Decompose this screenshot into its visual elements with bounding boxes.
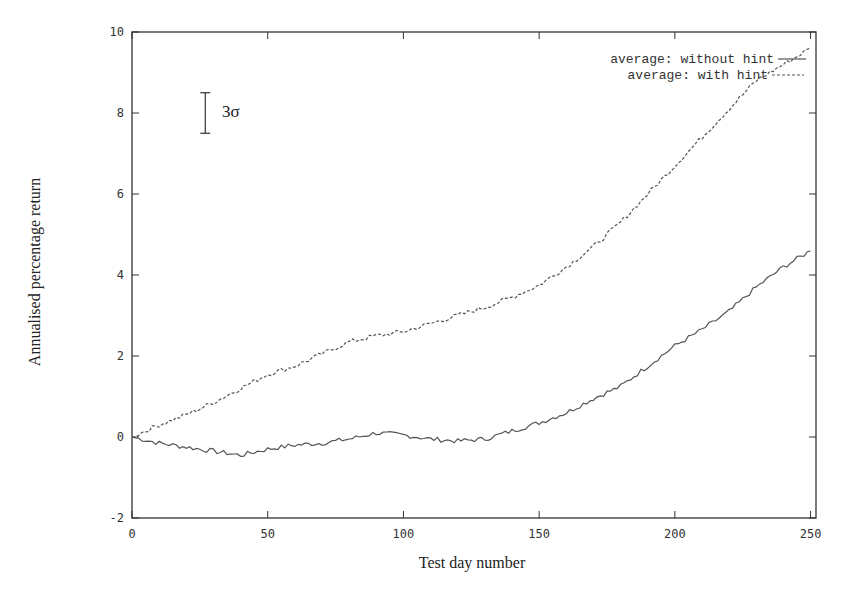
- y-tick-label: -2: [110, 511, 124, 525]
- x-tick-label: 200: [664, 527, 686, 541]
- y-tick-label: 4: [117, 268, 124, 282]
- y-axis-title: Annualised percentage return: [26, 178, 44, 366]
- x-tick-label: 100: [393, 527, 415, 541]
- line-without-hint: [132, 251, 811, 457]
- x-axis-title: Test day number: [419, 554, 526, 572]
- line-chart: 050100150200250 -20246810 Test day numbe…: [0, 0, 841, 591]
- y-tick-label: 8: [117, 106, 124, 120]
- y-tick-label: 2: [117, 349, 124, 363]
- y-tick-label: 10: [110, 25, 124, 39]
- y-axis-ticks: -20246810: [110, 25, 816, 525]
- x-tick-label: 150: [528, 527, 550, 541]
- legend-label-without-hint: average: without hint: [610, 52, 774, 67]
- sigma-error-bar: [200, 93, 210, 134]
- y-tick-label: 6: [117, 187, 124, 201]
- x-tick-label: 50: [260, 527, 274, 541]
- legend-label-with-hint: average: with hint: [628, 68, 768, 83]
- x-tick-label: 0: [128, 527, 135, 541]
- sigma-label: 3σ: [222, 102, 240, 121]
- y-tick-label: 0: [117, 430, 124, 444]
- x-tick-label: 250: [800, 527, 822, 541]
